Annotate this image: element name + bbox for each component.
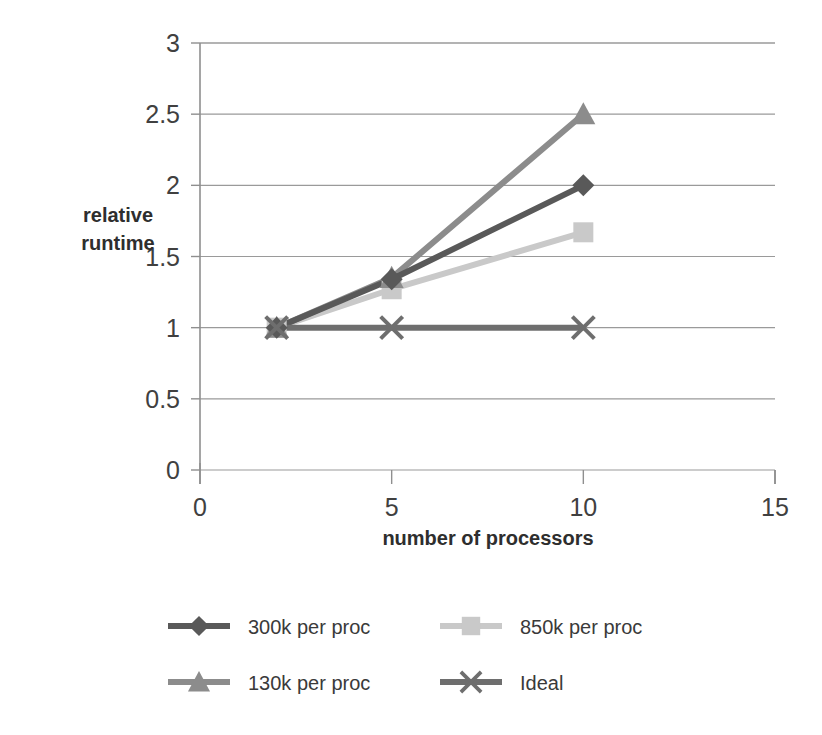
legend-label: 130k per proc bbox=[248, 672, 370, 694]
chart-canvas: 00.511.522.53 051015 relative runtime nu… bbox=[0, 0, 822, 735]
legend-item-300k-per-proc[interactable]: 300k per proc bbox=[168, 616, 370, 638]
legend-marker-diamond-icon bbox=[189, 616, 209, 636]
y-axis-title-line1: relative bbox=[83, 204, 153, 226]
y-tick-label-0.5: 0.5 bbox=[145, 385, 180, 413]
legend-label: 300k per proc bbox=[248, 616, 370, 638]
gridlines-group bbox=[200, 43, 775, 470]
x-axis-title: number of processors bbox=[382, 527, 593, 549]
x-tick-label-15: 15 bbox=[761, 493, 789, 521]
legend-item-ideal[interactable]: Ideal bbox=[440, 672, 563, 694]
y-tick-label-2.5: 2.5 bbox=[145, 100, 180, 128]
y-axis-tick-labels: 00.511.522.53 bbox=[145, 29, 180, 484]
datapoint-850k-per-proc-x10 bbox=[573, 222, 593, 242]
chart-legend: 300k per proc850k per proc130k per procI… bbox=[168, 616, 642, 694]
y-tick-label-2: 2 bbox=[166, 171, 180, 199]
x-axis-tick-labels: 051015 bbox=[193, 493, 789, 521]
data-series-group bbox=[277, 114, 584, 328]
data-markers-group bbox=[265, 102, 596, 339]
datapoint-300k-per-proc-x10 bbox=[572, 174, 594, 196]
series-line-130k-per-proc bbox=[277, 114, 584, 328]
datapoint-130k-per-proc-x10 bbox=[571, 102, 595, 124]
legend-label: 850k per proc bbox=[520, 616, 642, 638]
y-tick-label-1: 1 bbox=[166, 314, 180, 342]
legend-label: Ideal bbox=[520, 672, 563, 694]
x-tick-label-5: 5 bbox=[385, 493, 399, 521]
legend-item-130k-per-proc[interactable]: 130k per proc bbox=[168, 671, 370, 694]
y-tick-label-3: 3 bbox=[166, 29, 180, 57]
y-axis-title-line2: runtime bbox=[81, 232, 154, 254]
x-tick-label-0: 0 bbox=[193, 493, 207, 521]
y-tick-label-0: 0 bbox=[166, 456, 180, 484]
legend-marker-square-icon bbox=[462, 617, 480, 635]
x-tick-label-10: 10 bbox=[569, 493, 597, 521]
relative-runtime-line-chart: 00.511.522.53 051015 relative runtime nu… bbox=[0, 0, 822, 735]
legend-item-850k-per-proc[interactable]: 850k per proc bbox=[440, 616, 642, 638]
